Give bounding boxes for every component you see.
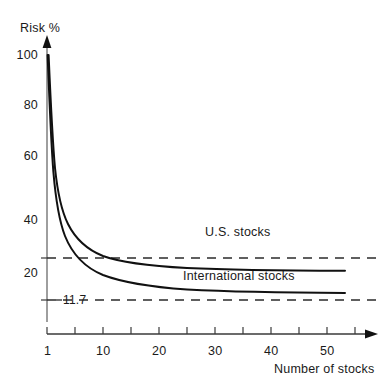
curve-international-stocks (48, 55, 345, 293)
x-tick-label-1: 1 (44, 345, 51, 358)
series-label-international-stocks: International stocks (183, 270, 295, 283)
x-tick-label-40: 40 (264, 345, 278, 358)
y-axis-title: Risk % (20, 22, 60, 35)
y-tick-label-60: 60 (8, 150, 38, 163)
annotation-label-11-7: 11.7 (63, 294, 86, 306)
y-tick-label-20: 20 (8, 267, 38, 280)
risk-diversification-chart: Risk % 100 80 60 40 20 11.7 1 10 20 30 4… (0, 0, 389, 388)
x-tick-label-50: 50 (320, 345, 334, 358)
x-tick-label-20: 20 (152, 345, 166, 358)
x-axis-ticks (47, 327, 355, 334)
series-label-us-stocks: U.S. stocks (205, 226, 270, 239)
y-tick-label-80: 80 (8, 99, 38, 112)
y-axis-ticks (41, 258, 47, 300)
y-tick-label-40: 40 (8, 214, 38, 227)
chart-canvas (0, 0, 389, 388)
y-tick-label-100: 100 (8, 49, 38, 62)
x-axis-title: Number of stocks (274, 363, 374, 376)
curve-us-stocks (49, 55, 345, 271)
y-axis-arrowhead (43, 35, 52, 48)
x-axis-arrowhead (365, 329, 378, 338)
x-tick-label-30: 30 (208, 345, 222, 358)
x-tick-label-10: 10 (96, 345, 110, 358)
